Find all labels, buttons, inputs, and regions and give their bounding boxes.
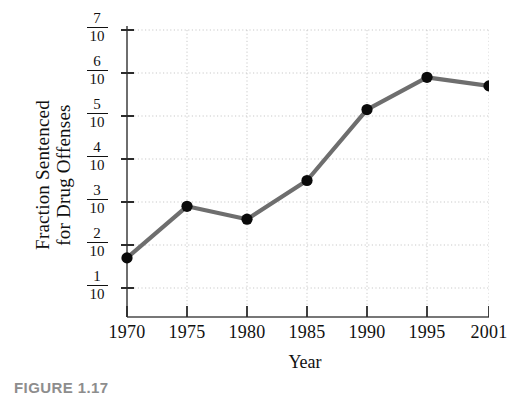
y-tick-label-2-10: 2 10 (76, 226, 118, 260)
y-tick-numerator: 1 (87, 269, 108, 286)
y-tick-numerator: 7 (87, 11, 108, 28)
x-axis-tick-labels: 1970 1975 1980 1985 1990 1995 2001 (0, 322, 522, 352)
horizontal-gridlines (127, 30, 489, 288)
y-tick-numerator: 5 (87, 97, 108, 114)
y-tick-label-3-10: 3 10 (76, 183, 118, 217)
data-point-1970 (121, 252, 132, 263)
data-point-1980 (241, 214, 252, 225)
y-tick-denominator: 10 (87, 243, 108, 259)
x-tick-label-2001: 2001 (454, 322, 522, 343)
data-series-line (127, 77, 489, 258)
data-point-1985 (301, 175, 312, 186)
y-tick-denominator: 10 (87, 28, 108, 44)
figure-caption: FIGURE 1.17 (14, 379, 108, 396)
x-tick-label-1995: 1995 (392, 322, 462, 343)
y-tick-denominator: 10 (87, 157, 108, 173)
y-tick-numerator: 3 (87, 183, 108, 200)
plot-area (121, 20, 489, 318)
y-tick-denominator: 10 (87, 200, 108, 216)
y-axis-title-line-1: Fraction Sentenced (32, 100, 53, 250)
data-point-markers (121, 72, 489, 264)
y-tick-label-5-10: 5 10 (76, 97, 118, 131)
x-axis-title: Year (121, 352, 489, 373)
y-tick-numerator: 4 (87, 140, 108, 157)
line-chart-svg (121, 20, 489, 318)
y-tick-numerator: 6 (87, 54, 108, 71)
data-point-2001 (483, 80, 489, 91)
axis-lines (127, 26, 489, 317)
y-tick-denominator: 10 (87, 71, 108, 87)
y-tick-numerator: 2 (87, 226, 108, 243)
y-tick-denominator: 10 (87, 114, 108, 130)
figure-container: Fraction Sentenced for Drug Offenses 7 1… (0, 0, 522, 405)
data-point-1975 (181, 201, 192, 212)
y-tick-label-7-10: 7 10 (76, 11, 118, 45)
data-point-1995 (421, 72, 432, 83)
y-tick-denominator: 10 (87, 286, 108, 302)
y-tick-label-4-10: 4 10 (76, 140, 118, 174)
data-point-1990 (361, 104, 372, 115)
y-tick-label-1-10: 1 10 (76, 269, 118, 303)
y-tick-label-6-10: 6 10 (76, 54, 118, 88)
